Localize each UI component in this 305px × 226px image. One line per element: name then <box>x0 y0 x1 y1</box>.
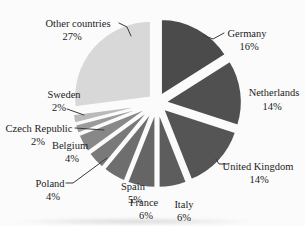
slice-name-text: Spain <box>121 181 146 192</box>
slice-percent-text: 14% <box>249 174 269 185</box>
slice-name-text: Italy <box>174 199 194 210</box>
slice-percent-text: 5% <box>128 194 142 205</box>
slice-percent-text: 2% <box>31 136 45 147</box>
slice-name-text: United Kingdom <box>223 161 294 172</box>
slice-name-text: Netherlands <box>249 87 300 98</box>
slice-percent-text: 4% <box>65 153 79 164</box>
slice-percent-text: 4% <box>46 191 60 202</box>
slice-label-united-kingdom: United Kingdom14% <box>223 161 294 185</box>
slice-percent-text: 2% <box>52 102 66 113</box>
slice-name-text: Other countries <box>45 18 110 29</box>
pie-chart-figure: Germany16%Netherlands14%United Kingdom14… <box>0 0 305 226</box>
slice-percent-text: 14% <box>262 101 282 112</box>
slice-name-text: Poland <box>35 178 65 189</box>
slice-label-germany: Germany16% <box>227 28 267 52</box>
slice-percent-text: 27% <box>62 31 82 42</box>
slice-label-belgium: Belgium4% <box>52 140 88 164</box>
slice-label-poland: Poland4% <box>35 178 65 202</box>
slice-percent-text: 6% <box>139 210 153 221</box>
exploded-pie-chart: Germany16%Netherlands14%United Kingdom14… <box>0 0 305 226</box>
slice-name-text: Czech Republic <box>6 123 73 134</box>
slice-percent-text: 6% <box>177 212 191 223</box>
slice-label-italy: Italy6% <box>174 199 194 223</box>
slice-name-text: Sweden <box>47 89 81 100</box>
slice-label-netherlands: Netherlands14% <box>249 87 300 112</box>
pie-slice-other-countries <box>74 21 151 108</box>
slice-name-text: Germany <box>227 28 267 39</box>
slice-name-text: Belgium <box>52 140 88 151</box>
slice-percent-text: 16% <box>239 41 259 52</box>
